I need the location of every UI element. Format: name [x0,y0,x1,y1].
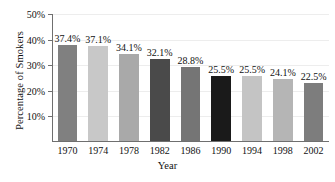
bar[interactable] [150,59,170,141]
bar[interactable] [88,46,108,141]
bar-slot: 37.4% [58,14,78,141]
bar-slot: 37.1% [88,14,108,141]
bar-value-label: 22.5% [301,71,327,82]
bar-slot: 24.1% [273,14,293,141]
bar[interactable] [211,76,231,141]
bar-chart: Percentage of Smokers 10%20%30%40%50% 37… [0,0,335,182]
bar[interactable] [242,76,262,141]
bar-value-label: 37.1% [85,34,111,45]
bar[interactable] [273,79,293,141]
y-axis-title: Percentage of Smokers [14,21,25,141]
x-tick-label: 1982 [150,145,170,156]
x-tick-label: 1990 [211,145,231,156]
y-tick-label: 50% [27,9,45,20]
y-tick-label: 20% [27,85,45,96]
bar-slot: 28.8% [181,14,201,141]
y-tick-label: 40% [27,34,45,45]
bar[interactable] [58,45,78,141]
x-tick-label: 1998 [273,145,293,156]
bar-value-label: 32.1% [147,47,173,58]
x-axis-title: Year [0,160,335,171]
bar-slot: 25.5% [242,14,262,141]
x-tick-label: 1986 [181,145,201,156]
x-tick-label: 1970 [57,145,77,156]
y-tick-label: 30% [27,60,45,71]
x-tick-label: 1978 [119,145,139,156]
bar-value-label: 28.8% [178,55,204,66]
x-tick-label: 2002 [304,145,324,156]
bar-value-label: 34.1% [116,42,142,53]
plot-area: 10%20%30%40%50% 37.4%37.1%34.1%32.1%28.8… [52,14,329,142]
bar[interactable] [119,54,139,141]
bar-value-label: 25.5% [208,64,234,75]
bar-slot: 34.1% [119,14,139,141]
y-tick-label: 10% [27,111,45,122]
x-axis-line [52,141,329,142]
bar-series: 37.4%37.1%34.1%32.1%28.8%25.5%25.5%24.1%… [52,14,329,141]
bar-slot: 25.5% [211,14,231,141]
bar-value-label: 25.5% [239,64,265,75]
bar-slot: 22.5% [304,14,324,141]
bar-value-label: 24.1% [270,67,296,78]
bar-value-label: 37.4% [54,33,80,44]
x-tick-label: 1974 [88,145,108,156]
bar[interactable] [181,67,201,141]
bar[interactable] [304,83,324,141]
x-tick-label: 1994 [242,145,262,156]
bar-slot: 32.1% [150,14,170,141]
